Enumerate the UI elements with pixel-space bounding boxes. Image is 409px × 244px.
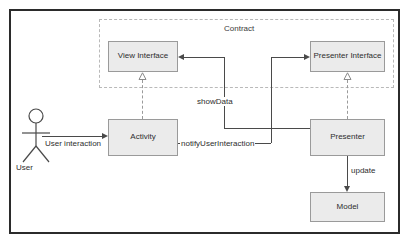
edge-notify-segment-vertical	[271, 57, 272, 143]
edge-update-arrowhead	[344, 186, 350, 192]
diagram-canvas: Contract View Interface Presenter Interf…	[0, 0, 409, 244]
node-activity-label: Activity	[130, 133, 155, 142]
edge-show-data-segment-horizontal-left	[184, 57, 224, 58]
edge-notify-label: notifyUserInteraction	[180, 139, 255, 148]
edge-update-label: update	[350, 166, 376, 175]
edge-show-data-arrowhead	[178, 54, 184, 60]
edge-show-data-label: showData	[196, 97, 234, 106]
edge-user-interaction-label: User interaction	[44, 139, 102, 148]
node-activity[interactable]: Activity	[108, 119, 178, 156]
edge-show-data-segment-vertical	[224, 57, 225, 128]
edge-show-data-segment-horizontal-right	[224, 128, 310, 129]
node-presenter-interface[interactable]: Presenter Interface	[310, 41, 385, 72]
actor-user-label: User	[16, 163, 33, 172]
edge-notify-arrowhead	[304, 54, 310, 60]
node-view-interface[interactable]: View Interface	[108, 41, 178, 72]
node-presenter[interactable]: Presenter	[310, 119, 385, 156]
node-model[interactable]: Model	[310, 192, 385, 222]
node-presenter-label: Presenter	[330, 133, 365, 142]
edge-update-line	[347, 156, 348, 186]
node-model-label: Model	[337, 203, 359, 212]
edge-notify-segment-horizontal-right	[271, 57, 304, 58]
edge-user-interaction-arrowhead	[102, 133, 108, 139]
realization-activity-to-view-interface-triangle-icon	[138, 72, 147, 81]
edge-user-interaction-line	[42, 136, 102, 137]
contract-group-label: Contract	[224, 24, 254, 33]
node-view-interface-label: View Interface	[118, 52, 169, 61]
node-presenter-interface-label: Presenter Interface	[313, 52, 381, 61]
realization-presenter-to-presenter-interface-triangle-icon	[343, 72, 352, 81]
realization-activity-to-view-interface-line	[142, 80, 143, 119]
realization-presenter-to-presenter-interface-line	[347, 80, 348, 119]
